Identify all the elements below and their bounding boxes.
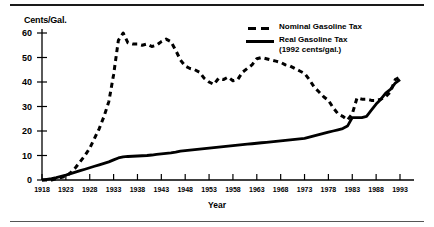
plot-area bbox=[0, 0, 434, 227]
legend-label-nominal: Nominal Gasoline Tax bbox=[279, 22, 362, 32]
solid-line-swatch-icon bbox=[246, 35, 274, 47]
legend-item-real: Real Gasoline Tax (1992 cents/gal.) bbox=[246, 35, 362, 55]
legend-item-nominal: Nominal Gasoline Tax bbox=[246, 22, 362, 34]
legend-sublabel-real: (1992 cents/gal.) bbox=[279, 45, 341, 54]
series-line-real bbox=[42, 80, 400, 180]
dashed-line-swatch-icon bbox=[246, 22, 274, 34]
chart-legend: Nominal Gasoline Tax Real Gasoline Tax (… bbox=[246, 22, 362, 56]
gasoline-tax-chart: Cents/Gal. Year 0102030405060 1918192319… bbox=[0, 0, 434, 227]
legend-label-real: Real Gasoline Tax bbox=[279, 35, 347, 44]
